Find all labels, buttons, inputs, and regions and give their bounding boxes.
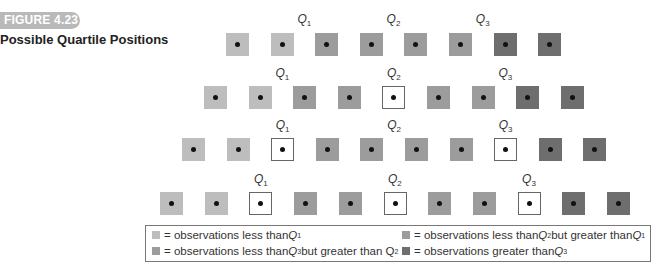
observation-dot-icon (437, 201, 442, 206)
observation-dot-icon (482, 201, 487, 206)
observation-dot-icon (347, 95, 352, 100)
observation-dot-icon (302, 95, 307, 100)
observation-square-medium (338, 86, 361, 109)
observation-dot-icon (169, 201, 174, 206)
observation-dot-icon (191, 147, 196, 152)
observation-square-dark (583, 138, 606, 161)
observation-dot-icon (459, 147, 464, 152)
observation-square-white (518, 192, 541, 215)
observation-dot-icon (391, 95, 396, 100)
observation-square-light (227, 138, 250, 161)
quartile-label-q1: Q1 (275, 66, 289, 82)
quartile-label-q1: Q1 (254, 172, 268, 188)
observation-dot-icon (258, 95, 263, 100)
legend-item-between-q2-q3: = observations less than Q3 but greater … (152, 245, 398, 257)
observation-square-dark (561, 86, 584, 109)
observation-square-light (205, 192, 228, 215)
observation-square-white (271, 138, 294, 161)
observation-square-medium (450, 138, 473, 161)
observation-dot-icon (592, 147, 597, 152)
observation-square-medium (293, 86, 316, 109)
quartile-label-q3: Q3 (499, 118, 513, 134)
observation-square-medium (428, 192, 451, 215)
legend-item-between-q1-q2: = observations less than Q2 but greater … (402, 229, 645, 241)
observation-square-white (382, 86, 405, 109)
observation-dot-icon (369, 147, 374, 152)
legend: = observations less than Q1 = observatio… (145, 225, 651, 262)
observation-dot-icon (525, 95, 530, 100)
legend-item-less-than-q1: = observations less than Q1 (152, 229, 301, 241)
observation-dot-icon (348, 201, 353, 206)
quartile-label-q3: Q3 (498, 66, 512, 82)
observation-square-dark (562, 192, 585, 215)
quartile-label-q2: Q2 (387, 118, 401, 134)
observation-square-dark (607, 192, 630, 215)
observation-dot-icon (258, 201, 263, 206)
observation-dot-icon (213, 95, 218, 100)
observation-square-medium (360, 138, 383, 161)
observation-dot-icon (236, 147, 241, 152)
observation-dot-icon (436, 95, 441, 100)
observation-dot-icon (280, 147, 285, 152)
observation-square-medium (294, 192, 317, 215)
observation-square-dark (516, 86, 539, 109)
observation-dot-icon (214, 201, 219, 206)
observation-dot-icon (570, 95, 575, 100)
observation-square-white (494, 138, 517, 161)
observation-square-medium (472, 86, 495, 109)
observation-dot-icon (571, 201, 576, 206)
observation-dot-icon (548, 147, 553, 152)
observation-dot-icon (325, 147, 330, 152)
legend-swatch-medium (402, 231, 410, 239)
observation-dot-icon (503, 147, 508, 152)
observation-square-medium (405, 138, 428, 161)
observation-dot-icon (414, 147, 419, 152)
observation-dot-icon (616, 201, 621, 206)
observation-square-light (249, 86, 272, 109)
observation-square-white (384, 192, 407, 215)
quartile-label-q3: Q3 (522, 172, 536, 188)
legend-swatch-medium (152, 247, 160, 255)
observation-dot-icon (393, 201, 398, 206)
legend-swatch-dark (402, 247, 410, 255)
observation-square-medium (339, 192, 362, 215)
legend-item-greater-than-q3: = observations greater than Q3 (402, 245, 567, 257)
quartile-label-q1: Q1 (276, 118, 290, 134)
quartile-label-q2: Q2 (388, 172, 402, 188)
row-n-11: Q1Q2Q3 (0, 0, 665, 50)
observation-square-light (204, 86, 227, 109)
observation-square-medium (316, 138, 339, 161)
legend-swatch-light (152, 231, 160, 239)
observation-dot-icon (527, 201, 532, 206)
observation-square-white (249, 192, 272, 215)
observation-square-dark (539, 138, 562, 161)
observation-dot-icon (303, 201, 308, 206)
observation-square-medium (427, 86, 450, 109)
observation-square-medium (473, 192, 496, 215)
observation-square-light (182, 138, 205, 161)
quartile-label-q2: Q2 (387, 66, 401, 82)
observation-square-light (160, 192, 183, 215)
observation-dot-icon (481, 95, 486, 100)
